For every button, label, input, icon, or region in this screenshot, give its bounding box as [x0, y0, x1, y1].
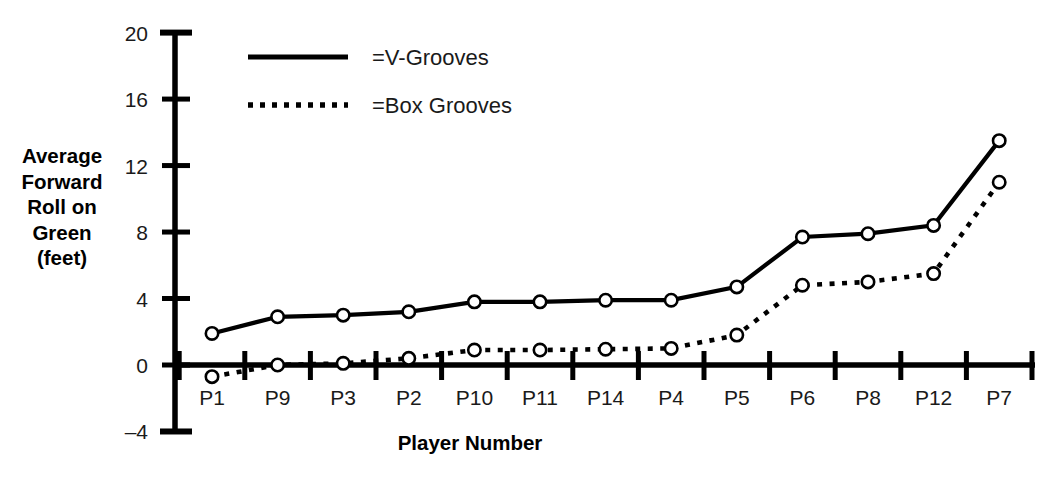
x-tick-label-p1: P1	[199, 386, 225, 409]
y-axis-title-line-1: Forward	[22, 170, 103, 193]
y-tick-label-16: 16	[125, 88, 148, 111]
data-point-s0-p14	[599, 294, 611, 306]
x-axis-tick-labels: P1P9P3P2P10P11P14P4P5P6P8P12P7	[199, 386, 1012, 409]
y-tick-label-0: 0	[136, 354, 148, 377]
data-point-s1-p3	[337, 357, 349, 369]
x-tick-label-p3: P3	[330, 386, 356, 409]
x-tick-label-p9: P9	[265, 386, 291, 409]
data-point-s1-p6	[796, 279, 808, 291]
y-axis-title-line-2: Roll on	[27, 195, 96, 218]
data-point-s1-p2	[403, 352, 415, 364]
markers-layer	[206, 134, 1006, 382]
chart-container: 201612840–4 P1P9P3P2P10P11P14P4P5P6P8P12…	[0, 0, 1064, 480]
data-point-s0-p2	[403, 306, 415, 318]
y-tick-label-4: 4	[136, 288, 148, 311]
data-point-s1-p14	[599, 343, 611, 355]
x-tick-label-p8: P8	[855, 386, 881, 409]
x-axis-title: Player Number	[398, 431, 543, 454]
y-tick-label-8: 8	[136, 221, 148, 244]
x-tick-label-p4: P4	[658, 386, 684, 409]
x-tick-label-p12: P12	[915, 386, 952, 409]
legend-label-v-grooves: =V-Grooves	[372, 45, 489, 70]
data-point-s1-p4	[665, 342, 677, 354]
data-point-s0-p10	[468, 296, 480, 308]
y-tick-label--4: –4	[125, 420, 149, 443]
data-point-s0-p8	[862, 228, 874, 240]
data-point-s0-p6	[796, 231, 808, 243]
y-axis-title: AverageForwardRoll onGreen(feet)	[22, 144, 103, 269]
chart-legend: =V-Grooves =Box Grooves	[248, 45, 512, 118]
x-tick-label-p2: P2	[396, 386, 422, 409]
data-point-s1-p8	[862, 276, 874, 288]
data-point-s1-p9	[271, 359, 283, 371]
y-tick-label-20: 20	[125, 22, 148, 45]
y-axis-title-line-3: Green	[32, 221, 91, 244]
data-point-s1-p12	[927, 267, 939, 279]
data-point-s1-p5	[731, 329, 743, 341]
line-chart: 201612840–4 P1P9P3P2P10P11P14P4P5P6P8P12…	[0, 0, 1064, 480]
y-tick-label-12: 12	[125, 155, 148, 178]
data-point-s0-p12	[927, 219, 939, 231]
x-tick-label-p6: P6	[790, 386, 816, 409]
data-point-s1-p7	[993, 176, 1005, 188]
y-axis-title-line-4: (feet)	[37, 246, 87, 269]
data-point-s0-p5	[731, 281, 743, 293]
x-tick-label-p11: P11	[522, 386, 558, 409]
data-point-s0-p3	[337, 309, 349, 321]
x-tick-label-p5: P5	[724, 386, 750, 409]
x-tick-label-p10: P10	[456, 386, 493, 409]
series-layer	[212, 141, 999, 377]
data-point-s1-p10	[468, 344, 480, 356]
data-point-s0-p9	[271, 311, 283, 323]
data-point-s0-p4	[665, 294, 677, 306]
data-point-s0-p1	[206, 327, 218, 339]
legend-label-box-grooves: =Box Grooves	[372, 93, 512, 118]
y-axis-title-line-0: Average	[22, 144, 102, 167]
data-point-s0-p11	[534, 296, 546, 308]
x-tick-label-p14: P14	[587, 386, 625, 409]
x-tick-label-p7: P7	[986, 386, 1012, 409]
data-point-s1-p11	[534, 344, 546, 356]
data-point-s1-p1	[206, 370, 218, 382]
data-point-s0-p7	[993, 134, 1005, 146]
y-axis-tick-labels: 201612840–4	[125, 22, 149, 444]
